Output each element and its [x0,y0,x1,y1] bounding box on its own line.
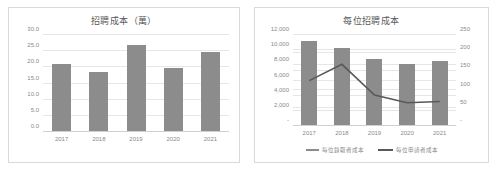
plot-area-right: -2,0004,0006,0008,00010,00012,000-501001… [293,35,456,126]
charts-container: 招聘成本（萬） 0.05.010.015.020.025.030.0 20172… [0,0,495,169]
bar-slot [155,35,192,132]
x-axis-tick-label: 2021 [192,132,229,142]
chart-title-left: 招聘成本（萬） [9,14,239,27]
bar-slot [80,35,117,132]
y-axis-tick-label: 10.0 [27,91,39,97]
x-axis-tick-label: 2017 [43,132,80,142]
chart-legend-right: 每位錄取者成本每位申請者成本 [255,146,488,154]
x-axis-tick-label: 2019 [117,132,154,142]
y-axis-tick-label: 250 [460,26,470,32]
x-axis-labels-right: 20172018201920202021 [293,126,456,136]
y-axis-tick-label: 10,000 [271,41,289,47]
legend-label: 每位錄取者成本 [322,146,364,154]
legend-item[interactable]: 每位錄取者成本 [306,146,364,154]
y-axis-tick-label: - [460,117,462,123]
y-axis-tick-label: 15.0 [27,75,39,81]
bar[interactable] [127,45,146,132]
y-axis-tick-label: 50 [460,99,467,105]
x-axis-labels-left: 20172018201920202021 [43,132,229,142]
y-axis-tick-label: 25.0 [27,42,39,48]
y-axis-tick-label: 2,000 [274,102,289,108]
y-axis-tick-label: 100 [460,81,470,87]
bar[interactable] [164,68,183,132]
x-axis-tick-label: 2019 [358,126,391,136]
chart-frame-right: 每位招聘成本 -2,0004,0006,0008,00010,00012,000… [254,7,489,163]
y-axis-tick-label: 30.0 [27,26,39,32]
bar-slot [43,35,80,132]
legend-label: 每位申請者成本 [396,146,438,154]
y-axis-tick-label: - [287,117,289,123]
chart-title-right: 每位招聘成本 [255,14,488,27]
y-axis-tick-label: 6,000 [274,72,289,78]
x-axis-tick-label: 2018 [80,132,117,142]
bar[interactable] [201,52,220,132]
y-axis-tick-label: 12,000 [271,26,289,32]
x-axis-tick-label: 2021 [423,126,456,136]
legend-bar-icon [306,149,319,151]
chart-frame-left: 招聘成本（萬） 0.05.010.015.020.025.030.0 20172… [8,7,240,163]
x-axis-tick-label: 2020 [391,126,424,136]
x-axis-tick-label: 2020 [155,132,192,142]
y-axis-tick-label: 20.0 [27,58,39,64]
y-axis-tick-label: 0.0 [31,123,39,129]
y-axis-tick-label: 150 [460,62,470,68]
y-axis-tick-label: 200 [460,44,470,50]
plot-area-left: 0.05.010.015.020.025.030.0 2017201820192… [43,35,229,132]
chart-panel-cost-per-hire: 每位招聘成本 -2,0004,0006,0008,00010,00012,000… [248,0,495,169]
bar[interactable] [89,72,108,132]
y-axis-tick-label: 4,000 [274,87,289,93]
y-axis-tick-label: 5.0 [31,107,39,113]
bar-series-left [43,35,229,132]
x-axis-tick-label: 2018 [326,126,359,136]
chart-panel-recruitment-cost: 招聘成本（萬） 0.05.010.015.020.025.030.0 20172… [0,0,248,169]
bar[interactable] [52,64,71,132]
y-axis-tick-label: 8,000 [274,56,289,62]
trend-line[interactable] [309,64,439,102]
legend-line-icon [378,149,393,151]
legend-item[interactable]: 每位申請者成本 [378,146,438,154]
bar-slot [117,35,154,132]
x-axis-tick-label: 2017 [293,126,326,136]
bar-slot [192,35,229,132]
